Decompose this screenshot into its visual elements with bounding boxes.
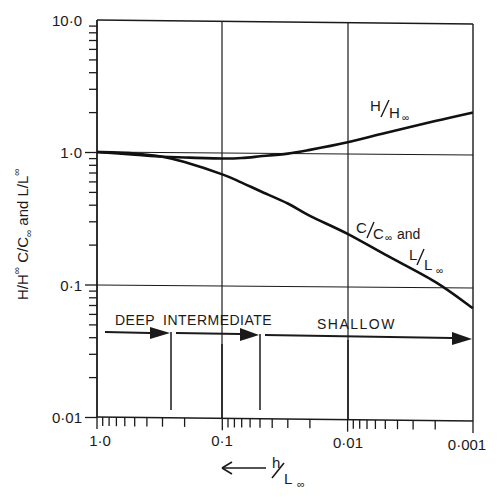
svg-text:L: L <box>409 246 417 263</box>
x-tick-0-1: 0·1 <box>211 432 233 449</box>
x-axis-label: h L ∞ <box>222 454 305 490</box>
grid-lines <box>97 22 473 419</box>
region-label-deep: DEEP <box>115 312 155 328</box>
arrow-right-icon <box>105 327 170 339</box>
y-tick-0-1: 0·1 <box>60 277 82 294</box>
chart-svg: 10·0 1·0 0·1 0·01 1·0 0·1 0·01 0·001 h L… <box>0 0 502 497</box>
svg-text:∞: ∞ <box>385 232 392 243</box>
x-tick-labels: 1·0 0·1 0·01 0·001 <box>89 432 486 453</box>
y-axis-ticks <box>85 26 97 417</box>
label-c-over-cinf: C C ∞ and <box>356 219 420 243</box>
region-labels: DEEP INTERMEDIATE SHALLOW <box>115 312 396 332</box>
svg-text:∞: ∞ <box>402 112 409 123</box>
y-tick-labels: 10·0 1·0 0·1 0·01 <box>52 12 82 426</box>
region-label-shallow: SHALLOW <box>317 316 396 332</box>
y-tick-1: 1·0 <box>60 144 82 161</box>
svg-text:H/H∞ C/C∞ and L/L∞: H/H∞ C/C∞ and L/L∞ <box>11 169 34 300</box>
plot-frame <box>97 20 473 421</box>
region-label-intermediate: INTERMEDIATE <box>163 312 272 328</box>
arrow-right-icon <box>265 332 472 345</box>
svg-text:and: and <box>397 226 420 242</box>
svg-text:∞: ∞ <box>436 265 443 276</box>
x-tick-1: 1·0 <box>89 432 111 449</box>
svg-text:H: H <box>370 97 381 114</box>
curve-h-over-hinf <box>97 113 473 159</box>
svg-text:C: C <box>373 225 384 242</box>
x-tick-0-001: 0·001 <box>448 436 486 453</box>
label-h-over-hinf: H H ∞ <box>370 97 409 123</box>
x-label-inf: ∞ <box>297 478 305 490</box>
svg-text:H: H <box>389 104 400 121</box>
x-label-L: L <box>284 470 292 487</box>
region-dividers <box>171 332 348 419</box>
svg-text:L: L <box>424 256 432 273</box>
arrow-right-icon <box>176 328 259 341</box>
y-tick-0-01: 0·01 <box>52 409 82 426</box>
x-tick-0-01: 0·01 <box>333 434 363 451</box>
svg-text:C: C <box>356 219 367 236</box>
region-arrows <box>105 327 472 345</box>
y-tick-10: 10·0 <box>52 12 82 29</box>
y-axis-label: H/H∞ C/C∞ and L/L∞ <box>11 169 34 300</box>
left-arrow-icon <box>222 462 266 474</box>
